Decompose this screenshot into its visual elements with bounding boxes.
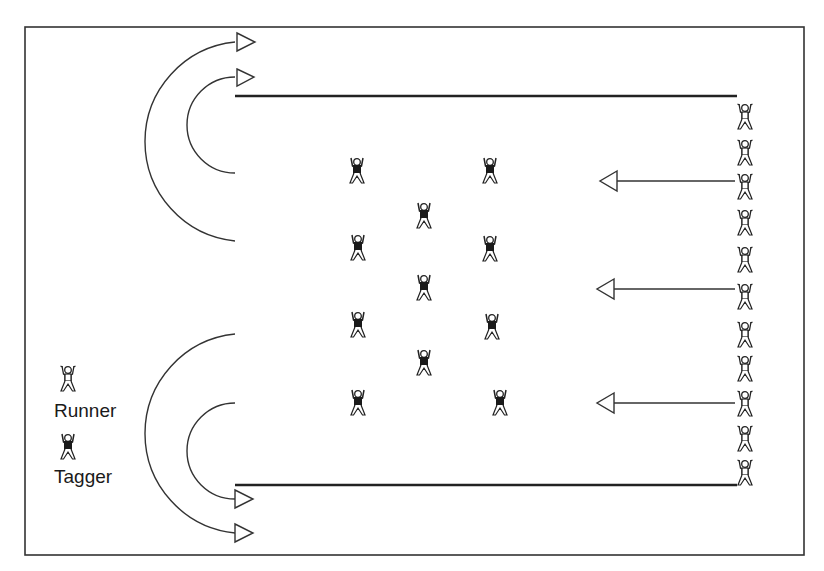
tagger-icon (483, 236, 497, 261)
tagger-icon (350, 158, 364, 183)
tagger-icon (485, 314, 499, 339)
runner-icon (738, 247, 753, 272)
tagger-icon (61, 434, 75, 459)
runner-icon (738, 210, 753, 235)
legend-runner-label: Runner (54, 400, 116, 422)
tagger-icon (351, 390, 365, 415)
runner-icon (738, 426, 753, 451)
runner-icon (61, 366, 76, 391)
tagger-icon (351, 235, 365, 260)
straight-arrow-2 (597, 279, 735, 299)
curved-arrow-top-outer (145, 33, 255, 241)
straight-arrow-1 (600, 171, 735, 191)
runner-icon (738, 140, 753, 165)
straight-arrow-3 (597, 393, 735, 413)
tagger-icon (417, 350, 431, 375)
runner-icon (738, 356, 753, 381)
tagger-icon (351, 312, 365, 337)
runner-icon (738, 104, 753, 129)
curved-arrow-top-inner (187, 69, 254, 173)
runner-icon (738, 460, 753, 485)
tagger-icon (493, 390, 507, 415)
runner-icon (738, 391, 753, 416)
runner-icon (738, 322, 753, 347)
tagger-group (350, 158, 507, 415)
curved-arrow-bottom-outer (145, 334, 253, 542)
tagger-icon (483, 158, 497, 183)
runner-line (738, 104, 753, 485)
tag-game-diagram (0, 0, 824, 571)
field-border (25, 27, 804, 555)
runner-icon (738, 174, 753, 199)
legend-tagger-label: Tagger (54, 466, 112, 488)
runner-icon (738, 284, 753, 309)
curved-arrow-bottom-inner (187, 403, 253, 508)
tagger-icon (417, 203, 431, 228)
tagger-icon (417, 275, 431, 300)
